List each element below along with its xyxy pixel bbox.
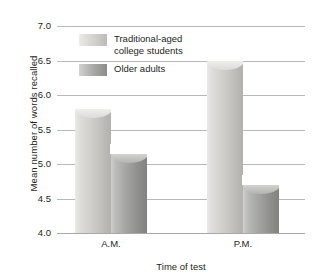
gridline <box>57 95 305 96</box>
bar-cap-mask <box>242 175 280 185</box>
x-axis-title: Time of test <box>57 261 305 272</box>
y-axis-tick-label: 6.0 <box>38 90 51 100</box>
bar-body <box>75 109 111 233</box>
legend-item-label: Older adults <box>114 63 165 75</box>
gridline <box>57 26 305 27</box>
legend-swatch-icon <box>79 34 107 46</box>
x-axis-tick-label: P.M. <box>203 238 283 249</box>
bar-am-series2 <box>111 154 147 233</box>
legend-swatch-icon <box>79 64 107 76</box>
bar-pm-series1 <box>207 61 243 234</box>
legend-item-label: Traditional-aged college students <box>114 33 183 56</box>
bar-chart: Mean number of words recalled 7.06.56.05… <box>0 0 324 279</box>
y-axis-tick-label: 4.5 <box>38 194 51 204</box>
legend: Traditional-aged college studentsOlder a… <box>79 33 183 83</box>
y-axis-tick-label: 6.5 <box>38 56 51 66</box>
gridline <box>57 233 305 234</box>
y-axis-tick-label: 7.0 <box>38 21 51 31</box>
bar-am-series1 <box>75 109 111 233</box>
bar-cap-mask <box>74 99 112 109</box>
y-axis-tick-label: 5.0 <box>38 159 51 169</box>
bar-body <box>207 61 243 234</box>
bar-cap-mask <box>110 144 148 154</box>
bar-cap-mask <box>206 51 244 61</box>
bar-pm-series2 <box>243 185 279 233</box>
x-axis-tick-label: A.M. <box>71 238 151 249</box>
bar-body <box>111 154 147 233</box>
y-axis-tick-label: 4.0 <box>38 228 51 238</box>
legend-item: Older adults <box>79 63 183 76</box>
legend-item: Traditional-aged college students <box>79 33 183 56</box>
y-axis-tick-label: 5.5 <box>38 125 51 135</box>
